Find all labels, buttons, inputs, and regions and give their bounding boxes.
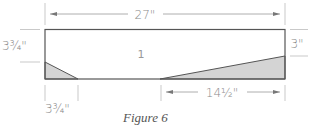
right-height-label: 3" (290, 37, 303, 51)
figure-caption: Figure 6 (122, 110, 168, 125)
right-taper-length-label: 14½" (206, 86, 238, 100)
left-taper-shading (45, 62, 78, 79)
right-taper-shading (160, 56, 285, 79)
board-diagram: 27" 3¾" 3" 3¾" 14½" 1 Figure 6 (0, 0, 311, 128)
overall-length-label: 27" (135, 8, 156, 22)
left-taper-length-label: 3¾" (45, 102, 70, 116)
part-number-label: 1 (138, 48, 145, 61)
left-height-label: 3¾" (2, 39, 27, 53)
